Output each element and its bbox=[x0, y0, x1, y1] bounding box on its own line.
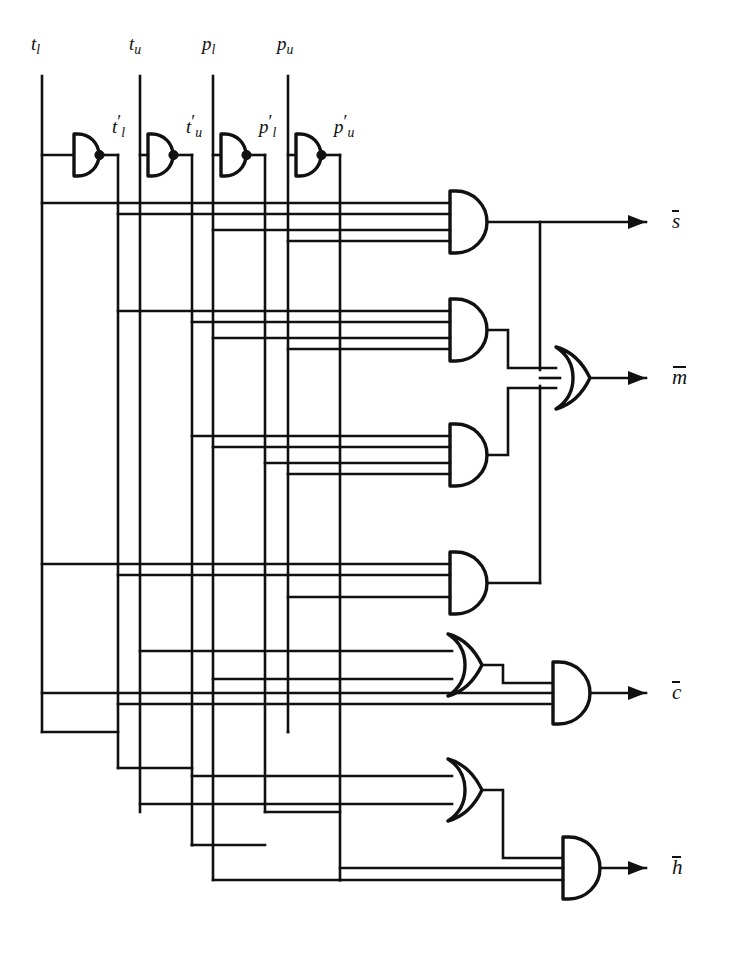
and-gate-3-output-wire bbox=[487, 388, 556, 455]
and-gate-2 bbox=[450, 299, 487, 361]
inverter-label-pl: p′l bbox=[259, 113, 276, 140]
and-gate-h bbox=[563, 837, 600, 899]
input-label-tu: tu bbox=[129, 34, 141, 57]
and-gate-2-output-wire bbox=[487, 330, 556, 368]
inverter-pl bbox=[213, 134, 265, 812]
inverter-tu bbox=[140, 134, 192, 845]
m-bar-output-wire bbox=[540, 371, 646, 583]
inverter-label-tu: t′u bbox=[186, 113, 202, 140]
s-bar-output-wire bbox=[487, 215, 646, 370]
or-gate-6-output-wire bbox=[482, 790, 563, 858]
or-gate-6 bbox=[448, 759, 482, 821]
s-bar-arrowhead bbox=[628, 215, 646, 229]
m-bar-arrowhead bbox=[628, 371, 646, 385]
output-label-h: h bbox=[672, 856, 683, 878]
and-gate-2-input-wires bbox=[118, 311, 450, 349]
and-gate-1 bbox=[450, 191, 487, 253]
and-gate-1-input-wires bbox=[42, 203, 450, 241]
circuit-schematic bbox=[0, 0, 735, 955]
c-bar-arrowhead bbox=[628, 686, 646, 700]
and-gate-3 bbox=[450, 424, 487, 486]
and-gate-c bbox=[553, 662, 590, 724]
and-gate-h-input-wires bbox=[192, 845, 563, 880]
h-bar-output-wire bbox=[600, 861, 646, 875]
and-gate-4-input-wires bbox=[42, 564, 450, 597]
output-label-c: c bbox=[672, 681, 681, 703]
inverter-tl bbox=[42, 134, 118, 768]
or-gate-6-input-wires bbox=[140, 776, 452, 804]
input-label-tl: tl bbox=[31, 34, 40, 57]
inverter-pu bbox=[288, 134, 340, 880]
c-bar-output-wire bbox=[590, 686, 646, 700]
or-gate-5 bbox=[448, 634, 482, 696]
figure-canvas: tl tu pl pu t′l t′u p′l p′u s m c h bbox=[0, 0, 735, 955]
and-gate-3-input-wires bbox=[192, 436, 450, 474]
input-label-pu: pu bbox=[277, 34, 293, 57]
and-gate-4 bbox=[450, 552, 487, 614]
or-gate-5-input-wires bbox=[140, 651, 452, 679]
output-label-m: m bbox=[672, 366, 687, 388]
or-gate-5-output-wire bbox=[482, 665, 553, 683]
input-label-pl: pl bbox=[202, 34, 215, 57]
inverter-label-tl: t′l bbox=[112, 113, 125, 140]
inverter-label-pu: p′u bbox=[334, 113, 354, 140]
h-bar-arrowhead bbox=[628, 861, 646, 875]
output-label-s: s bbox=[672, 210, 680, 232]
